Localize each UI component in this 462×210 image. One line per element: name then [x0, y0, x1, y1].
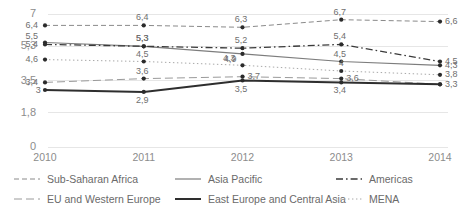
x-axis-tick-label: 2013	[311, 152, 371, 163]
data-point-label: 5,3	[136, 34, 149, 43]
data-point-marker	[240, 25, 244, 29]
legend-line-swatch	[336, 194, 362, 204]
legend-item[interactable]: EU and Western Europe	[14, 192, 161, 206]
data-point-marker	[43, 23, 47, 27]
data-point-label: 3,4	[333, 86, 346, 95]
legend-item[interactable]: Asia Pacific	[175, 172, 262, 186]
legend-line-swatch	[175, 194, 201, 204]
legend-item-label: Sub-Saharan Africa	[47, 174, 138, 185]
data-point-marker	[240, 46, 244, 50]
legend-line-swatch	[336, 174, 362, 184]
data-point-label: 3,7	[248, 72, 261, 81]
legend-item-label: Americas	[369, 174, 413, 185]
data-point-marker	[240, 75, 244, 79]
data-point-marker	[142, 90, 146, 94]
data-point-marker	[339, 80, 343, 84]
data-point-label: 6,7	[333, 8, 346, 17]
chart-legend: Sub-Saharan AfricaAsia PacificAmericasEU…	[0, 168, 455, 210]
data-point-marker	[142, 77, 146, 81]
data-point-label: 3	[36, 86, 41, 95]
legend-line-swatch	[175, 174, 201, 184]
data-point-marker	[240, 78, 244, 82]
data-point-marker	[142, 44, 146, 48]
data-point-label: 2,9	[136, 96, 149, 105]
data-point-label: 5,4	[25, 40, 38, 49]
data-point-label: 3,8	[445, 70, 458, 79]
data-point-label: 3,3	[445, 80, 458, 89]
data-point-label: 5,4	[333, 32, 346, 41]
x-axis-tick-label: 2012	[213, 152, 273, 163]
data-point-marker	[240, 52, 244, 56]
data-point-label: 6,4	[136, 13, 149, 22]
legend-item[interactable]: MENA	[336, 192, 399, 206]
data-point-label: 4,3	[223, 54, 236, 63]
x-axis-tick-label: 2011	[114, 152, 174, 163]
x-axis-tick-label: 2010	[15, 152, 75, 163]
data-point-marker	[438, 82, 442, 86]
legend-item-label: EU and Western Europe	[47, 194, 161, 205]
data-point-marker	[438, 73, 442, 77]
x-axis-tick-label: 2014	[410, 152, 462, 163]
data-point-label: 3,5	[235, 85, 248, 94]
legend-item-label: East Europe and Central Asia	[208, 194, 346, 205]
data-point-label: 3,6	[136, 67, 149, 76]
y-axis-tick-label: 1,8	[2, 107, 36, 118]
data-point-marker	[339, 69, 343, 73]
data-point-marker	[43, 58, 47, 62]
data-point-label: 6,6	[445, 17, 458, 26]
data-point-marker	[142, 23, 146, 27]
data-point-marker	[142, 59, 146, 63]
data-point-label: 4	[339, 59, 344, 68]
y-axis-tick-label: 7	[2, 8, 36, 19]
legend-item-label: MENA	[369, 194, 399, 205]
y-axis-tick-label: 0	[2, 141, 36, 152]
data-point-marker	[438, 63, 442, 67]
data-point-marker	[43, 88, 47, 92]
data-point-label: 4,5	[445, 57, 458, 66]
data-point-marker	[339, 42, 343, 46]
data-point-marker	[339, 18, 343, 22]
data-point-label: 4,6	[25, 55, 38, 64]
legend-line-swatch	[14, 174, 40, 184]
data-point-marker	[240, 63, 244, 67]
data-point-label: 4,5	[136, 50, 149, 59]
legend-item[interactable]: Americas	[336, 172, 413, 186]
data-point-marker	[438, 59, 442, 63]
data-point-marker	[43, 80, 47, 84]
data-point-label: 3,6	[346, 74, 359, 83]
data-point-label: 5,2	[235, 36, 248, 45]
data-point-label: 6,3	[235, 15, 248, 24]
legend-line-swatch	[14, 194, 40, 204]
legend-item[interactable]: East Europe and Central Asia	[175, 192, 346, 206]
data-point-marker	[43, 42, 47, 46]
data-point-label: 6,4	[25, 21, 38, 30]
data-point-marker	[339, 77, 343, 81]
legend-item[interactable]: Sub-Saharan Africa	[14, 172, 138, 186]
data-point-marker	[438, 20, 442, 24]
legend-item-label: Asia Pacific	[208, 174, 262, 185]
